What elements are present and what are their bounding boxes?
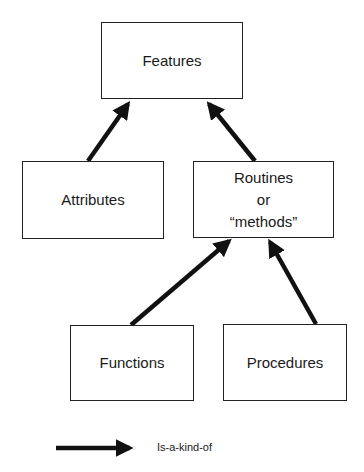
node-features: Features bbox=[101, 22, 243, 99]
node-functions-label: Functions bbox=[99, 352, 164, 374]
arrow-attributes-to-features bbox=[88, 104, 128, 161]
legend-label: Is-a-kind-of bbox=[157, 441, 212, 453]
arrow-functions-to-routines bbox=[131, 241, 229, 325]
node-procedures: Procedures bbox=[223, 324, 347, 401]
node-routines-label: Routines or “methods” bbox=[230, 167, 298, 233]
node-attributes-label: Attributes bbox=[61, 189, 124, 211]
node-procedures-label: Procedures bbox=[247, 352, 324, 374]
node-features-label: Features bbox=[142, 50, 201, 72]
arrow-routines-to-features bbox=[209, 104, 255, 161]
node-functions: Functions bbox=[70, 325, 194, 401]
arrow-procedures-to-routines bbox=[270, 242, 316, 324]
node-routines: Routines or “methods” bbox=[193, 161, 334, 238]
node-attributes: Attributes bbox=[22, 161, 164, 239]
